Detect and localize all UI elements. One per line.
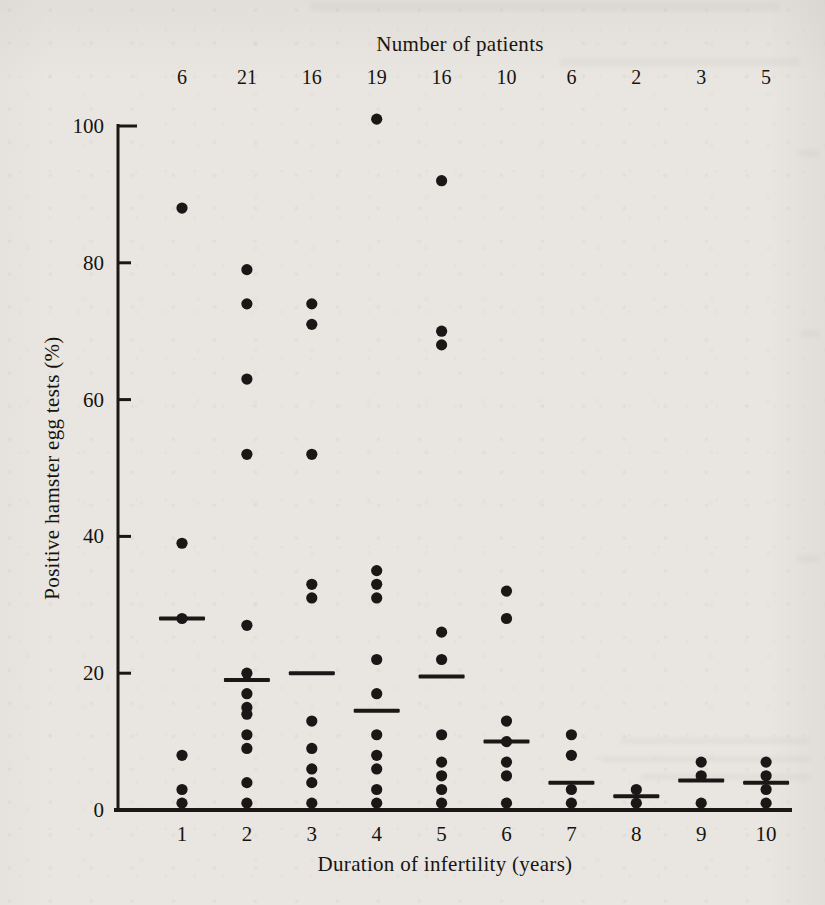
y-tick-label: 20	[83, 661, 104, 685]
data-point	[306, 319, 317, 330]
x-tick-label: 7	[566, 822, 577, 846]
data-point	[696, 770, 707, 781]
y-tick-label: 100	[73, 114, 105, 138]
plot-area: 02040608010012345678910	[0, 0, 825, 905]
data-point	[631, 784, 642, 795]
data-point	[566, 798, 577, 809]
y-tick-label: 60	[83, 388, 104, 412]
x-tick-label: 1	[177, 822, 188, 846]
mean-bar	[419, 675, 465, 679]
data-point	[501, 770, 512, 781]
data-point	[306, 715, 317, 726]
y-axis-label: Positive hamster egg tests (%)	[40, 336, 65, 599]
data-point	[371, 763, 382, 774]
data-point	[566, 750, 577, 761]
mean-bar	[354, 709, 400, 713]
data-point	[696, 798, 707, 809]
x-axis-label: Duration of infertility (years)	[130, 852, 760, 877]
y-tick-label: 40	[83, 524, 104, 548]
x-tick-label: 9	[696, 822, 707, 846]
data-point	[696, 757, 707, 768]
data-point	[241, 264, 252, 275]
data-point	[436, 175, 447, 186]
x-tick-label: 4	[371, 822, 382, 846]
data-point	[371, 579, 382, 590]
data-point	[371, 654, 382, 665]
data-point	[761, 770, 772, 781]
data-point	[761, 798, 772, 809]
mean-bar	[289, 671, 335, 675]
data-point	[306, 298, 317, 309]
data-point	[371, 784, 382, 795]
x-tick-label: 6	[501, 822, 512, 846]
x-tick-label: 2	[242, 822, 253, 846]
data-point	[241, 668, 252, 679]
data-point	[371, 688, 382, 699]
data-point	[241, 777, 252, 788]
data-point	[436, 326, 447, 337]
data-point	[241, 729, 252, 740]
data-point	[501, 613, 512, 624]
data-point	[176, 784, 187, 795]
data-point	[176, 202, 187, 213]
data-point	[306, 743, 317, 754]
data-point	[241, 449, 252, 460]
data-point	[306, 592, 317, 603]
data-point	[241, 798, 252, 809]
data-point	[176, 798, 187, 809]
data-point	[176, 538, 187, 549]
y-tick-label: 0	[94, 798, 105, 822]
y-tick-label: 80	[83, 251, 104, 275]
data-point	[436, 798, 447, 809]
data-point	[436, 627, 447, 638]
data-point	[306, 449, 317, 460]
x-tick-label: 10	[756, 822, 777, 846]
data-point	[501, 715, 512, 726]
x-tick-label: 3	[307, 822, 318, 846]
data-point	[371, 750, 382, 761]
data-point	[436, 654, 447, 665]
data-point	[371, 729, 382, 740]
data-point	[306, 777, 317, 788]
data-point	[241, 709, 252, 720]
data-point	[436, 770, 447, 781]
data-point	[371, 798, 382, 809]
data-point	[241, 298, 252, 309]
data-point	[306, 763, 317, 774]
data-point	[371, 114, 382, 125]
data-point	[436, 784, 447, 795]
data-point	[566, 784, 577, 795]
data-point	[566, 729, 577, 740]
data-point	[501, 586, 512, 597]
data-point	[436, 339, 447, 350]
data-point	[761, 757, 772, 768]
data-point	[176, 613, 187, 624]
data-point	[501, 736, 512, 747]
data-point	[306, 579, 317, 590]
data-point	[306, 798, 317, 809]
x-tick-label: 8	[631, 822, 642, 846]
data-point	[241, 373, 252, 384]
x-tick-label: 5	[436, 822, 447, 846]
data-point	[241, 743, 252, 754]
data-point	[371, 592, 382, 603]
data-point	[241, 688, 252, 699]
data-point	[631, 798, 642, 809]
data-point	[501, 757, 512, 768]
data-point	[501, 798, 512, 809]
data-point	[761, 784, 772, 795]
data-point	[371, 565, 382, 576]
data-point	[176, 750, 187, 761]
data-point	[241, 620, 252, 631]
data-point	[436, 729, 447, 740]
data-point	[436, 757, 447, 768]
scanned-page: Number of patients 621161916106235 02040…	[0, 0, 825, 905]
